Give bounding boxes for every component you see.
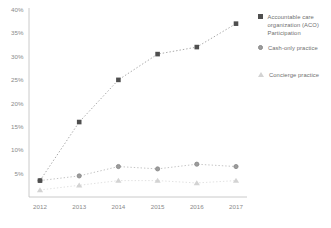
circle-marker (116, 164, 120, 168)
square-marker (77, 120, 82, 125)
square-marker (155, 52, 160, 57)
square-marker (195, 45, 200, 50)
triangle-marker (37, 187, 43, 192)
triangle-marker (115, 178, 121, 183)
square-marker (38, 178, 43, 183)
y-tick-label: 35% (11, 29, 24, 36)
series-line-0 (40, 24, 236, 181)
legend-label-cash-only: Cash-only practice (268, 44, 318, 52)
y-tick-label: 30% (11, 53, 24, 60)
circle-marker (234, 164, 238, 168)
chart-legend: Accountable care organization (ACO) Part… (258, 13, 331, 80)
y-tick-label: 40% (11, 6, 24, 13)
x-tick-label: 2017 (229, 203, 243, 210)
circle-marker-icon (258, 45, 263, 50)
square-marker (234, 21, 239, 26)
square-marker (116, 78, 121, 83)
legend-label-aco: Accountable care organization (ACO) Part… (268, 13, 331, 37)
x-tick-label: 2015 (151, 203, 165, 210)
line-chart: 40%35%30%25%20%15%10%5%20122013201420152… (0, 0, 255, 228)
y-tick-label: 20% (11, 100, 24, 107)
triangle-marker-icon (258, 72, 264, 77)
x-tick-label: 2012 (33, 203, 47, 210)
y-tick-label: 15% (11, 123, 24, 130)
legend-item-aco: Accountable care organization (ACO) Part… (258, 13, 331, 37)
legend-item-cash-only: Cash-only practice (258, 44, 331, 52)
circle-marker (156, 167, 160, 171)
circle-marker (77, 174, 81, 178)
x-tick-label: 2013 (72, 203, 86, 210)
square-marker-icon (258, 14, 263, 19)
x-tick-label: 2016 (190, 203, 204, 210)
y-tick-label: 25% (11, 76, 24, 83)
series-line-2 (40, 181, 236, 190)
legend-label-concierge: Concierge practice (269, 71, 319, 79)
legend-item-concierge: Concierge practice (258, 71, 331, 79)
series-line-1 (40, 164, 236, 180)
triangle-marker (194, 180, 200, 185)
circle-marker (195, 162, 199, 166)
chart-panel: 40%35%30%25%20%15%10%5%20122013201420152… (0, 0, 331, 228)
y-tick-label: 10% (11, 146, 24, 153)
x-tick-label: 2014 (112, 203, 126, 210)
y-tick-label: 5% (15, 170, 24, 177)
